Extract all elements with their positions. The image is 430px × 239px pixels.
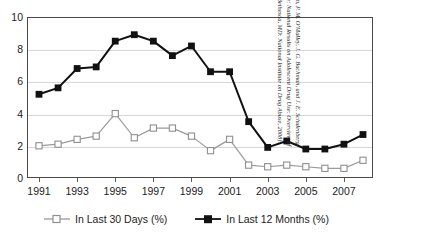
data-point-marker — [112, 111, 118, 117]
chart-container: 0246810 19911993199519971999200120032005… — [0, 0, 430, 239]
data-point-marker — [169, 52, 176, 59]
series-30-days — [36, 111, 366, 172]
legend-item-30-days: In Last 30 Days (%) — [44, 213, 167, 225]
data-point-marker — [93, 64, 100, 71]
data-point-marker — [303, 164, 309, 170]
data-point-marker — [74, 65, 81, 72]
legend-item-12-months: In Last 12 Months (%) — [195, 213, 329, 225]
x-tick-mark — [268, 178, 269, 182]
y-tick-label: 6 — [2, 75, 23, 87]
x-tick-mark — [191, 178, 192, 182]
data-point-marker — [302, 146, 309, 153]
data-point-marker — [131, 31, 138, 38]
data-point-marker — [226, 68, 233, 75]
data-point-marker — [226, 136, 232, 142]
x-tick-mark — [153, 178, 154, 182]
legend-label-30-days: In Last 30 Days (%) — [75, 213, 167, 225]
data-point-marker — [150, 125, 156, 131]
data-point-marker — [55, 141, 61, 147]
x-tick-mark — [115, 178, 116, 182]
data-point-marker — [131, 135, 137, 141]
x-tick-label: 2003 — [248, 185, 288, 197]
data-point-marker — [360, 157, 366, 163]
legend: In Last 30 Days (%) In Last 12 Months (%… — [0, 213, 373, 225]
series-line — [39, 35, 363, 149]
x-tick-mark — [230, 178, 231, 182]
data-point-marker — [322, 165, 328, 171]
y-tick-label: 8 — [2, 43, 23, 55]
x-tick-label: 2001 — [210, 185, 250, 197]
data-series-layer — [27, 17, 373, 178]
y-tick-label: 10 — [2, 11, 23, 23]
data-point-marker — [207, 68, 214, 75]
series-line — [39, 114, 363, 169]
series-12-months — [36, 31, 367, 152]
x-tick-label: 1997 — [133, 185, 173, 197]
x-tick-label: 2005 — [286, 185, 326, 197]
legend-label-12-months: In Last 12 Months (%) — [226, 213, 329, 225]
data-point-marker — [321, 146, 328, 153]
y-tick-label: 4 — [2, 108, 23, 120]
x-tick-mark — [39, 178, 40, 182]
data-point-marker — [341, 165, 347, 171]
data-point-marker — [55, 84, 62, 91]
data-point-marker — [246, 162, 252, 168]
x-tick-mark — [77, 178, 78, 182]
data-point-marker — [112, 38, 119, 45]
data-point-marker — [207, 148, 213, 154]
x-tick-label: 1999 — [171, 185, 211, 197]
data-point-marker — [36, 143, 42, 149]
data-point-marker — [150, 38, 157, 45]
data-point-marker — [341, 141, 348, 148]
data-point-marker — [169, 125, 175, 131]
data-point-marker — [188, 133, 194, 139]
x-tick-label: 1995 — [95, 185, 135, 197]
data-point-marker — [360, 131, 367, 138]
y-tick-label: 2 — [2, 140, 23, 152]
data-point-marker — [188, 43, 195, 50]
x-tick-label: 2007 — [324, 185, 364, 197]
x-tick-mark — [306, 178, 307, 182]
data-point-marker — [93, 133, 99, 139]
source-citation: Source: L. D. Johnston, P. M. O'Malley, … — [247, 0, 303, 149]
x-tick-label: 1993 — [57, 185, 97, 197]
data-point-marker — [74, 136, 80, 142]
legend-marker-open-square-icon — [44, 214, 70, 224]
y-tick-label: 0 — [2, 172, 23, 184]
x-tick-label: 1991 — [19, 185, 59, 197]
data-point-marker — [36, 91, 43, 98]
x-tick-mark — [344, 178, 345, 182]
legend-marker-filled-square-icon — [195, 214, 221, 224]
data-point-marker — [265, 164, 271, 170]
data-point-marker — [284, 162, 290, 168]
